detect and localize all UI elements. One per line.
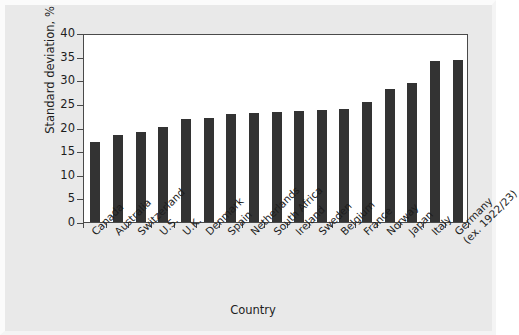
y-axis-tick-label: 25: [60, 99, 75, 110]
bar: [385, 89, 395, 222]
x-axis-title: Country: [5, 303, 501, 317]
bar: [430, 61, 440, 222]
x-axis-tick-labels: CanadaAustraliaSwitzerlandU.S.U.K.Denmar…: [83, 229, 483, 299]
bar: [90, 142, 100, 222]
bar: [181, 119, 191, 222]
y-axis-tick-label: 15: [60, 146, 75, 157]
y-axis-tick-labels: 0510152025303540: [53, 34, 75, 223]
y-axis-tick-label: 10: [60, 170, 75, 181]
y-axis-tick-label: 20: [60, 123, 75, 134]
y-axis-tick-label: 35: [60, 52, 75, 63]
bar: [204, 118, 214, 222]
bar: [249, 113, 259, 222]
y-axis-tick-label: 0: [68, 217, 75, 228]
y-axis-tick-label: 30: [60, 75, 75, 86]
x-axis-tick-mark: [83, 223, 84, 228]
y-axis-tick-label: 5: [68, 193, 75, 204]
plot-area: [83, 34, 468, 223]
bars-layer: [84, 35, 467, 222]
y-axis-tick-label: 40: [60, 28, 75, 39]
bar: [453, 60, 463, 222]
